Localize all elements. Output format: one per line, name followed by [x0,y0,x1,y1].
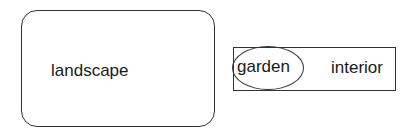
garden-node: garden [232,46,304,90]
landscape-label: landscape [51,61,129,81]
interior-node: garden interior [233,47,396,91]
garden-label: garden [237,57,290,77]
landscape-node: landscape [21,10,215,127]
interior-label: interior [331,58,383,78]
